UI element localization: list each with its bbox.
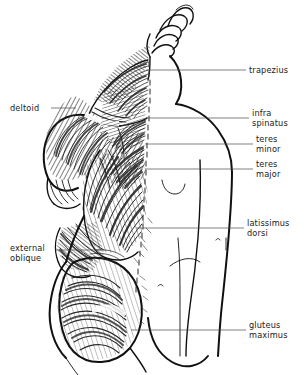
label-external-oblique-line1: external [10, 243, 45, 253]
label-infraspinatus-line1: infra [252, 108, 271, 118]
anatomy-illustration: trapezius infra spinatus teres minor ter… [0, 0, 304, 375]
label-trapezius: trapezius [249, 65, 288, 75]
figure-background [0, 0, 304, 375]
label-latissimus-dorsi-line2: dorsi [247, 228, 268, 238]
anatomy-figure: trapezius infra spinatus teres minor ter… [0, 0, 304, 375]
label-teres-major-line1: teres [256, 159, 278, 169]
label-gluteus-maximus-line1: gluteus [249, 320, 280, 330]
label-gluteus-maximus-line2: maximus [249, 330, 288, 340]
label-deltoid: deltoid [10, 103, 39, 113]
label-teres-minor-line2: minor [256, 144, 281, 154]
label-external-oblique-line2: oblique [10, 253, 41, 263]
label-teres-minor-line1: teres [256, 134, 278, 144]
label-latissimus-dorsi-line1: latissimus [247, 218, 290, 228]
label-infraspinatus-line2: spinatus [252, 118, 288, 128]
label-teres-major-line2: major [256, 169, 281, 179]
